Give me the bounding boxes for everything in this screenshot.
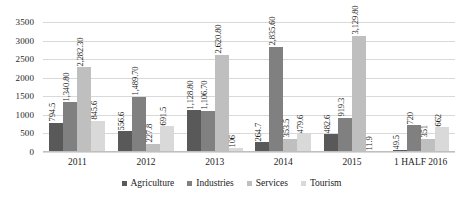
bar-group: 264.72,835.60353.5479.6 xyxy=(249,22,318,152)
bar-group: 556.61,489.70227.8691.5 xyxy=(112,22,181,152)
bar-value-label: 1,340.80 xyxy=(62,72,71,101)
bar-group: 482.6919.33,129.8011.9 xyxy=(318,22,387,152)
x-axis: 201120122013201420151 HALF 2016 xyxy=(43,154,455,170)
bar-group: 794.51,340.802,282.30845.6 xyxy=(43,22,112,152)
bar-value-label: 794.5 xyxy=(48,103,57,122)
bar-value-label: 11.9 xyxy=(365,136,374,150)
x-axis-tick-label: 2015 xyxy=(318,154,387,170)
bar-value-label: 2,620.80 xyxy=(213,25,222,54)
y-axis-tick-label: 3000 xyxy=(16,36,34,45)
y-axis: 0500100015002000250030003500 xyxy=(0,22,38,152)
bar[interactable]: 691.5 xyxy=(160,126,174,152)
bar-value-label: 662 xyxy=(433,114,442,126)
legend-swatch-icon xyxy=(301,181,306,186)
y-axis-tick-label: 2000 xyxy=(16,73,34,82)
bar-value-label: 720 xyxy=(405,112,414,124)
x-axis-tick-label: 2012 xyxy=(112,154,181,170)
bar-value-label: 845.6 xyxy=(90,101,99,120)
gridline xyxy=(43,152,455,153)
legend-item[interactable]: Services xyxy=(247,178,288,188)
bar-chart: 0500100015002000250030003500 794.51,340.… xyxy=(0,0,463,200)
bar-value-label: 1,489.70 xyxy=(131,67,140,96)
bar-value-label: 227.8 xyxy=(145,124,154,143)
legend-label: Agriculture xyxy=(131,178,175,188)
bar-value-label: 264.7 xyxy=(254,123,263,142)
plot-area: 794.51,340.802,282.30845.6556.61,489.702… xyxy=(43,22,455,152)
legend-label: Tourism xyxy=(310,178,342,188)
bar-groups: 794.51,340.802,282.30845.6556.61,489.702… xyxy=(43,22,455,152)
y-axis-tick-label: 1500 xyxy=(16,92,34,101)
legend-item[interactable]: Tourism xyxy=(301,178,342,188)
bar-value-label: 353.5 xyxy=(282,119,291,138)
legend-label: Industries xyxy=(196,178,233,188)
y-axis-tick-label: 500 xyxy=(20,129,34,138)
chart-legend: AgricultureIndustriesServicesTourism xyxy=(0,178,463,188)
bar-value-label: 3,129.80 xyxy=(351,6,360,35)
y-axis-tick-label: 3500 xyxy=(16,18,34,27)
bar-group: 1,128.801,106.702,620.80106 xyxy=(180,22,249,152)
bar-value-label: 482.6 xyxy=(323,114,332,133)
legend-item[interactable]: Industries xyxy=(187,178,233,188)
bar-group: 49.5720351662 xyxy=(386,22,455,152)
bar[interactable]: 1,106.70 xyxy=(201,111,215,152)
legend-swatch-icon xyxy=(187,181,192,186)
legend-swatch-icon xyxy=(247,181,252,186)
bar[interactable]: 919.3 xyxy=(338,118,352,152)
y-axis-tick-label: 1000 xyxy=(16,110,34,119)
bar[interactable]: 479.6 xyxy=(297,134,311,152)
bar-value-label: 691.5 xyxy=(159,107,168,126)
legend-item[interactable]: Agriculture xyxy=(122,178,175,188)
y-axis-tick-label: 2500 xyxy=(16,55,34,64)
bar-value-label: 351 xyxy=(419,126,428,138)
bar-value-label: 919.3 xyxy=(337,98,346,117)
bar-value-label: 2,835.60 xyxy=(268,17,277,46)
bar-value-label: 479.6 xyxy=(296,115,305,134)
axis-baseline xyxy=(43,151,455,152)
bar-value-label: 1,106.70 xyxy=(199,81,208,110)
bar[interactable]: 482.6 xyxy=(324,134,338,152)
bar[interactable]: 1,340.80 xyxy=(63,102,77,152)
bar[interactable]: 556.6 xyxy=(118,131,132,152)
bar-value-label: 49.5 xyxy=(391,135,400,149)
bar-value-label: 2,282.30 xyxy=(76,37,85,66)
bar-value-label: 106 xyxy=(227,135,236,147)
x-axis-tick-label: 1 HALF 2016 xyxy=(386,154,455,170)
bar[interactable]: 794.5 xyxy=(49,123,63,153)
bar[interactable]: 1,128.80 xyxy=(187,110,201,152)
x-axis-tick-label: 2014 xyxy=(249,154,318,170)
bar[interactable]: 845.6 xyxy=(91,121,105,152)
legend-label: Services xyxy=(256,178,288,188)
bar-value-label: 1,128.80 xyxy=(185,80,194,109)
bar[interactable]: 3,129.80 xyxy=(352,36,366,152)
x-axis-tick-label: 2013 xyxy=(180,154,249,170)
legend-swatch-icon xyxy=(122,181,127,186)
y-axis-tick-label: 0 xyxy=(29,148,34,157)
x-axis-tick-label: 2011 xyxy=(43,154,112,170)
bar[interactable]: 662 xyxy=(435,127,449,152)
bar-value-label: 556.6 xyxy=(117,112,126,131)
